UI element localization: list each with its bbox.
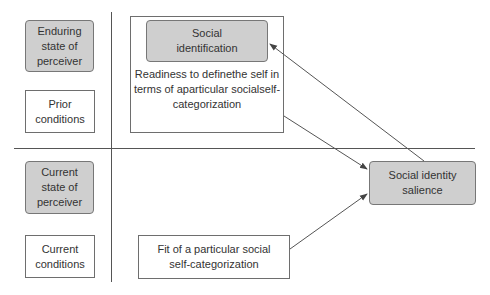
- arrow-fit-to-salience: [290, 194, 367, 249]
- arrow-salience-to-identification: [270, 44, 424, 161]
- arrow-readiness-to-salience: [284, 116, 367, 169]
- arrows-layer: [0, 0, 490, 295]
